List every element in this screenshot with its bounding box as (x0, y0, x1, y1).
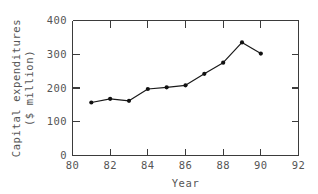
data-point-82 (108, 97, 112, 101)
data-point-84 (146, 87, 150, 91)
data-point-90 (259, 51, 263, 55)
x-tick-label-80: 80 (66, 159, 79, 171)
x-tick-label-92: 92 (292, 159, 305, 171)
y-tick-label-300: 300 (47, 48, 67, 60)
data-point-81 (89, 100, 93, 104)
x-tick-label-84: 84 (141, 159, 154, 171)
data-point-89 (240, 40, 244, 44)
y-tick-label-400: 400 (47, 14, 67, 26)
x-tick-label-88: 88 (216, 159, 229, 171)
x-tick-label-90: 90 (254, 159, 267, 171)
x-axis-title: Year (172, 177, 200, 189)
x-tick-label-86: 86 (179, 159, 192, 171)
data-point-86 (183, 83, 187, 87)
x-tick-label-82: 82 (103, 159, 116, 171)
y-axis-title-line1: Capital expenditures (10, 19, 22, 157)
data-point-83 (127, 99, 131, 103)
chart-figure: 400 300 200 100 0 80 82 84 86 88 90 92 Y… (0, 0, 318, 194)
data-point-88 (221, 61, 225, 65)
y-axis-title-line2: ($ million) (23, 50, 35, 126)
line-chart-canvas: 400 300 200 100 0 80 82 84 86 88 90 92 Y… (0, 0, 318, 194)
y-tick-label-200: 200 (47, 82, 67, 94)
data-point-85 (165, 85, 169, 89)
y-tick-label-100: 100 (47, 115, 67, 127)
chart-background (0, 0, 318, 194)
data-point-87 (202, 72, 206, 76)
